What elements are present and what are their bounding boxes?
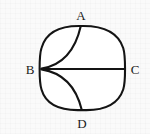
vertex-label-c: C bbox=[131, 62, 140, 77]
figure-svg: A B C D bbox=[0, 0, 150, 134]
vertex-label-a: A bbox=[76, 8, 86, 23]
geometric-figure-canvas: A B C D bbox=[0, 0, 150, 134]
vertex-label-b: B bbox=[26, 62, 35, 77]
vertex-label-d: D bbox=[77, 116, 86, 131]
